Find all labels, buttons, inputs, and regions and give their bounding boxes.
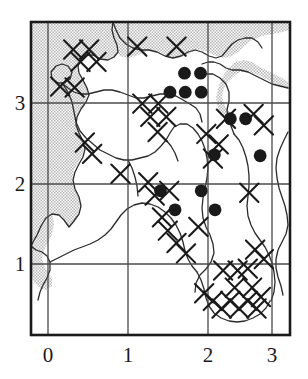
y-tick-label-1: 1 bbox=[15, 252, 26, 276]
x-tick-label-2: 2 bbox=[203, 343, 214, 367]
record-dot bbox=[194, 67, 207, 80]
record-dot bbox=[239, 112, 252, 125]
record-dot bbox=[178, 67, 191, 80]
record-dot bbox=[254, 149, 267, 162]
x-tick-label-0: 0 bbox=[43, 343, 54, 367]
record-dot bbox=[195, 86, 208, 99]
record-dot bbox=[209, 203, 222, 216]
record-dot bbox=[179, 86, 192, 99]
record-dot bbox=[224, 112, 237, 125]
record-dot bbox=[208, 148, 221, 161]
x-tick-label-3: 3 bbox=[267, 343, 278, 367]
distribution-map-figure: 0 1 2 3 3 2 1 bbox=[0, 0, 308, 379]
record-dot bbox=[169, 203, 182, 216]
x-tick-label-1: 1 bbox=[123, 343, 134, 367]
record-dot bbox=[154, 184, 167, 197]
y-tick-label-3: 3 bbox=[15, 91, 26, 115]
map-canvas: 0 1 2 3 3 2 1 bbox=[0, 0, 308, 379]
y-tick-label-2: 2 bbox=[15, 172, 26, 196]
record-dot bbox=[195, 184, 208, 197]
record-dot bbox=[164, 86, 177, 99]
